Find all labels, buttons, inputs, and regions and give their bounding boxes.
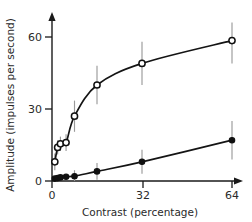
- data-point-open: [94, 82, 100, 88]
- data-point-filled: [229, 138, 234, 143]
- data-point-open: [52, 159, 58, 165]
- y-axis-title: Amplitude (impulses per second): [4, 18, 16, 192]
- x-axis-title: Contrast (percentage): [82, 206, 198, 218]
- y-ticklabel-60: 60: [28, 31, 42, 44]
- data-point-open: [139, 60, 145, 66]
- x-ticklabel-0: 0: [49, 189, 56, 202]
- data-point-filled: [63, 174, 68, 179]
- x-ticklabel-32: 32: [136, 189, 150, 202]
- chart-figure: 0 30 60 Amplitude (impulses per second) …: [0, 0, 252, 222]
- data-point-filled: [72, 174, 77, 179]
- data-point-filled: [139, 159, 144, 164]
- x-ticklabel-64: 64: [225, 189, 239, 202]
- y-ticklabel-30: 30: [28, 103, 42, 116]
- data-point-filled: [94, 169, 99, 174]
- data-point-open: [63, 140, 69, 146]
- y-ticklabel-0: 0: [35, 175, 42, 188]
- amplitude-vs-contrast-chart: 0 30 60 Amplitude (impulses per second) …: [0, 0, 252, 222]
- data-point-open: [229, 38, 235, 44]
- data-point-open: [71, 113, 77, 119]
- data-point-filled: [58, 175, 63, 180]
